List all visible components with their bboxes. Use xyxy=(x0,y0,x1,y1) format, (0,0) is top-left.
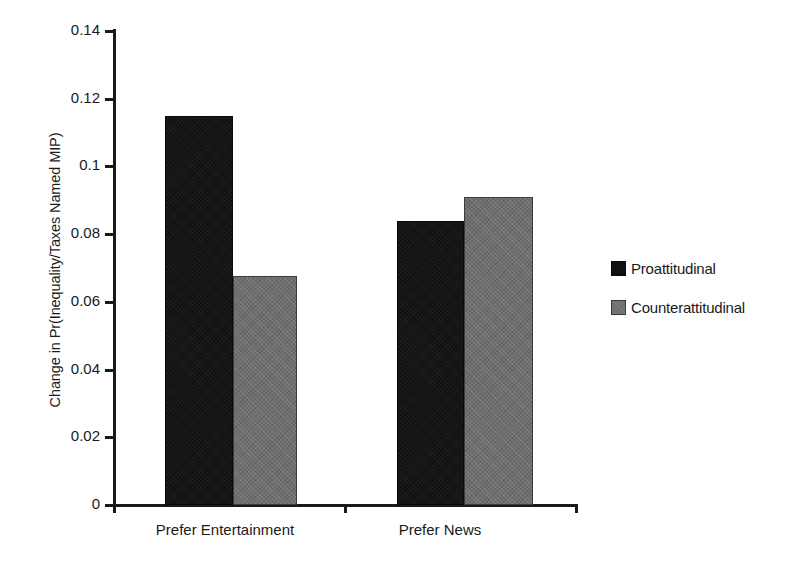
bar-chart-figure: Change in Pr(Inequality/Taxes Named MIP)… xyxy=(0,0,803,573)
x-axis-tick-left xyxy=(113,504,116,513)
legend-label-proattitudinal: Proattitudinal xyxy=(631,260,716,277)
plot-area xyxy=(113,31,578,505)
y-axis-tick-label-0.04: 0.04 xyxy=(40,360,100,377)
y-axis-tick-label-0.12: 0.12 xyxy=(40,89,100,106)
bar-prefer-entertainment-counterattitudinal xyxy=(233,276,297,505)
legend-swatch-icon-counterattitudinal xyxy=(611,300,626,315)
bar-prefer-news-counterattitudinal xyxy=(464,197,533,505)
y-axis-tick-label-0.1: 0.1 xyxy=(40,156,100,173)
chart-legend: Proattitudinal Counterattitudinal xyxy=(611,260,801,338)
x-axis-label-prefer-entertainment: Prefer Entertainment xyxy=(110,521,340,538)
legend-label-counterattitudinal: Counterattitudinal xyxy=(631,299,745,316)
legend-item-proattitudinal: Proattitudinal xyxy=(611,260,801,277)
x-axis-tick-mid xyxy=(344,504,347,513)
y-axis-tick-label-0.06: 0.06 xyxy=(40,292,100,309)
legend-swatch-icon-proattitudinal xyxy=(611,261,626,276)
bar-prefer-entertainment-proattitudinal xyxy=(165,116,233,505)
y-axis-tick-label-0.08: 0.08 xyxy=(40,224,100,241)
x-axis-label-prefer-news: Prefer News xyxy=(350,521,530,538)
y-axis-tick-label-0.02: 0.02 xyxy=(40,427,100,444)
bar-prefer-news-proattitudinal xyxy=(397,221,464,505)
y-axis-title: Change in Pr(Inequality/Taxes Named MIP) xyxy=(47,60,63,480)
legend-item-counterattitudinal: Counterattitudinal xyxy=(611,299,801,316)
x-axis-tick-right xyxy=(575,504,578,513)
y-axis-tick-label-0.14: 0.14 xyxy=(40,21,100,38)
y-axis-tick-label-0: 0 xyxy=(40,495,100,512)
